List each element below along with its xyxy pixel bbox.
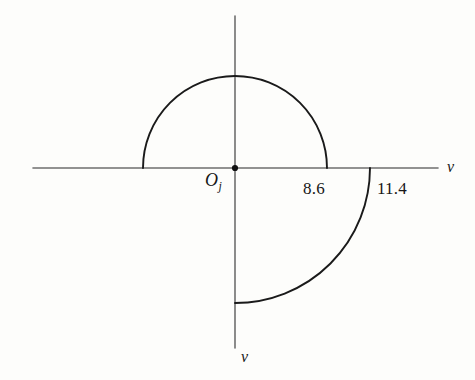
tick-label-8-6: 8.6 — [303, 179, 325, 199]
vertical-axis-label: v — [241, 348, 248, 366]
origin-symbol: O — [205, 170, 218, 190]
tick-label-11-4: 11.4 — [377, 179, 407, 199]
figure-canvas: Oj 8.6 11.4 v v — [0, 0, 475, 380]
horizontal-axis-label: v — [447, 158, 454, 176]
origin-point — [232, 165, 238, 171]
origin-label: Oj — [205, 170, 222, 194]
origin-subscript: j — [219, 179, 222, 193]
